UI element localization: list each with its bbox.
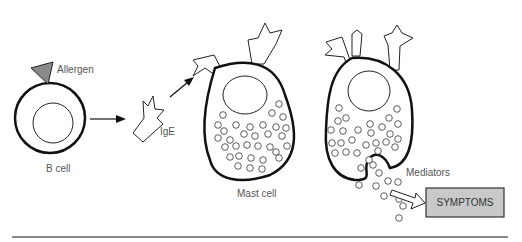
- symptoms-label: SYMPTOMS: [426, 188, 504, 217]
- allergen-icon: [31, 62, 53, 84]
- divider-line: [12, 236, 508, 238]
- mediator-granules: [356, 157, 407, 222]
- mediators-label: Mediators: [406, 167, 450, 178]
- arrow-icon: [170, 77, 194, 97]
- ige-label: IgE: [160, 126, 175, 137]
- b-cell: [15, 83, 85, 153]
- b-cell-label: B cell: [46, 163, 70, 174]
- arrow-icon: [90, 115, 126, 123]
- mast-cell: [193, 23, 294, 180]
- allergen-label: Allergen: [57, 64, 94, 75]
- activated-mast-cell: [325, 25, 413, 221]
- hollow-arrow-icon: [390, 190, 425, 209]
- mast-cell-label: Mast cell: [237, 188, 276, 199]
